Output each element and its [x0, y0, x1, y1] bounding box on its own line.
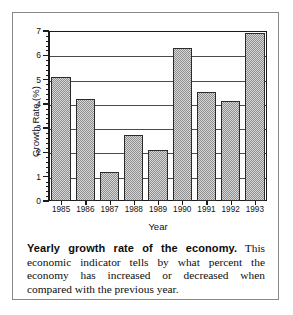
bar-chart: Growth Rate (%) 01234567 198519861987198…: [13, 13, 279, 235]
y-tick-label: 6: [36, 51, 41, 60]
x-tick-label: 1991: [197, 205, 215, 214]
x-tick-label: 1993: [246, 205, 264, 214]
caption-lead: Yearly growth rate of the economy.: [27, 242, 237, 254]
bar: [197, 92, 216, 201]
x-tick-label: 1987: [100, 205, 118, 214]
x-tick-label: 1988: [125, 205, 143, 214]
x-tick-label: 1992: [222, 205, 240, 214]
bars-group: [49, 31, 267, 201]
bar: [173, 48, 192, 201]
y-tick-label: 2: [36, 148, 41, 157]
bar: [76, 99, 95, 201]
bar: [51, 77, 70, 201]
y-tick-label: 5: [36, 75, 41, 84]
bar: [100, 172, 119, 201]
x-tick-label: 1985: [52, 205, 70, 214]
y-tick-label: 1: [36, 172, 41, 181]
figure-container: Growth Rate (%) 01234567 198519861987198…: [12, 12, 279, 300]
y-tick-label: 4: [36, 100, 41, 109]
y-tick-label: 3: [36, 124, 41, 133]
figure-caption: Yearly growth rate of the economy. This …: [27, 242, 265, 296]
x-tick-label: 1986: [76, 205, 94, 214]
bar: [245, 33, 264, 201]
bar: [221, 101, 240, 201]
y-tick-label: 0: [36, 197, 41, 206]
bar: [124, 135, 143, 201]
x-axis-labels: 198519861987198819891990199119921993: [49, 205, 267, 219]
x-axis-title: Year: [49, 221, 267, 232]
bar: [148, 150, 167, 201]
x-tick-label: 1989: [149, 205, 167, 214]
y-tick-label: 7: [36, 27, 41, 36]
x-tick-label: 1990: [173, 205, 191, 214]
y-axis-ticks: 01234567: [13, 31, 49, 201]
